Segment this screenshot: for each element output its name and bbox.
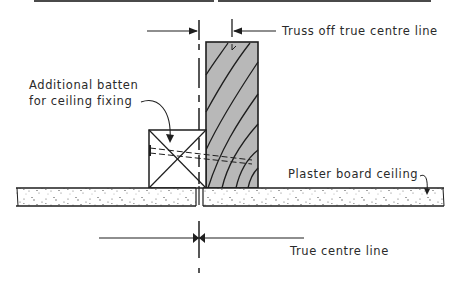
true-centre-label: True centre line (289, 244, 389, 258)
true-centre-marker (99, 221, 304, 273)
arrowhead-left (199, 233, 205, 243)
batten-label-line1: Additional batten (29, 78, 138, 92)
plasterboard-right (203, 188, 444, 206)
truss-member (206, 42, 258, 188)
arrowhead-right (189, 28, 198, 35)
truss-detail-diagram: Truss off true centre line Additional ba… (0, 0, 464, 293)
plasterboard-label: Plaster board ceiling (288, 167, 418, 181)
plasterboard-ceiling (16, 186, 444, 206)
batten (149, 130, 206, 188)
plasterboard-left (16, 188, 196, 206)
batten-label-line2: for ceiling fixing (29, 94, 132, 108)
truss-offset-label: Truss off true centre line (281, 24, 438, 38)
offset-dimension (147, 19, 276, 37)
top-border (34, 0, 431, 2)
arrowhead-right (193, 233, 199, 243)
arrowhead-left (233, 28, 242, 35)
